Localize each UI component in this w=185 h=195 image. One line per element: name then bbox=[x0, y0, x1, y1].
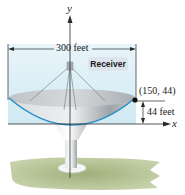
diagram-canvas bbox=[0, 0, 185, 195]
x-axis-label: x bbox=[172, 118, 177, 129]
receiver-label: Receiver bbox=[88, 57, 128, 71]
ground bbox=[10, 158, 160, 191]
y-axis-arrow-icon bbox=[68, 15, 73, 23]
x-axis-arrow-icon bbox=[163, 122, 171, 127]
depth-label: 44 feet bbox=[147, 107, 175, 117]
parabolic-dish-diagram: y x 300 feet Receiver (150, 44) 44 feet bbox=[0, 0, 185, 195]
rim-point-marker bbox=[132, 97, 137, 102]
dish-rim bbox=[9, 89, 135, 107]
support-stem bbox=[65, 138, 77, 168]
width-label: 300 feet bbox=[56, 43, 89, 53]
point-label: (150, 44) bbox=[139, 86, 176, 96]
y-axis-label: y bbox=[67, 3, 72, 14]
